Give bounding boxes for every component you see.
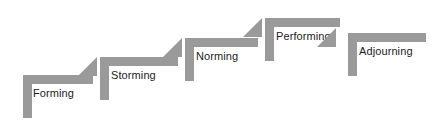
stage-bracket-leg-storming [100,57,109,100]
stage-bracket-leg-adjourning [348,33,357,76]
arrowhead-icon-norming [163,38,182,57]
arrowhead-icon-storming [78,57,97,76]
stage-bracket-top-performing [265,18,340,27]
stage-bracket-top-storming [100,57,178,66]
stage-label-adjourning: Adjourning [359,45,413,57]
stage-bracket-leg-performing [265,18,274,61]
stage-bracket-top-forming [23,75,93,84]
stage-bracket-top-adjourning [348,33,426,42]
team-development-stages-diagram: FormingStormingNormingPerformingAdjourni… [0,0,439,132]
arrowhead-icon-performing [243,18,262,37]
stage-bracket-leg-norming [185,38,194,81]
arrowhead-icon-adjourning [317,28,336,47]
stage-bracket-leg-forming [23,75,32,118]
stage-label-norming: Norming [196,50,238,62]
stage-bracket-top-norming [185,38,258,47]
stage-label-forming: Forming [33,87,74,99]
stage-label-storming: Storming [111,69,156,81]
